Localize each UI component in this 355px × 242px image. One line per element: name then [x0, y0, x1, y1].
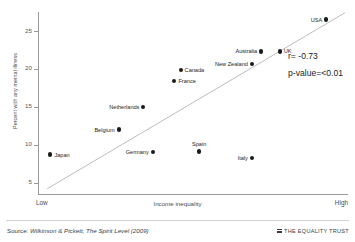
- data-point-uk[interactable]: [278, 49, 282, 53]
- brand-label: THE EQUALITY TRUST: [284, 227, 349, 235]
- point-label-new-zealand: New Zealand: [215, 61, 248, 67]
- x-axis-line: [38, 194, 348, 195]
- y-axis-title: Percent with any mental illness: [12, 31, 18, 151]
- point-label-japan: Japan: [54, 152, 69, 158]
- data-point-japan[interactable]: [48, 152, 52, 156]
- y-axis-line: [38, 12, 39, 194]
- point-label-france: France: [178, 78, 195, 84]
- data-point-france[interactable]: [172, 79, 176, 83]
- data-point-canada[interactable]: [179, 68, 183, 72]
- point-label-spain: Spain: [192, 141, 206, 147]
- cropped-title-sliver: [42, 0, 192, 7]
- hamburger-bars-icon: [277, 229, 282, 234]
- data-point-italy[interactable]: [250, 156, 254, 160]
- y-tick-label: 5: [6, 179, 32, 185]
- x-axis-title: Income inequality: [0, 200, 355, 207]
- pvalue-annotation: p-value=<0.01: [288, 68, 343, 78]
- y-tick-label: 15: [6, 103, 32, 109]
- y-tick-mark: [34, 145, 38, 146]
- data-point-belgium[interactable]: [117, 127, 121, 131]
- x-axis-low-label: Low: [36, 199, 48, 206]
- data-point-netherlands[interactable]: [141, 105, 145, 109]
- y-tick-label: 20: [6, 65, 32, 71]
- y-tick-mark: [34, 69, 38, 70]
- y-tick-mark: [34, 183, 38, 184]
- point-label-australia: Australia: [235, 48, 257, 54]
- y-tick-label: 10: [6, 141, 32, 147]
- source-prefix: Source:: [7, 227, 30, 234]
- x-axis-high-label: High: [335, 199, 348, 206]
- data-point-germany[interactable]: [151, 150, 155, 154]
- source-citation: Wilkinson & Pickett, The Spirit Level (2…: [30, 227, 149, 234]
- point-label-italy: Italy: [238, 155, 248, 161]
- source-note: Source: Wilkinson & Pickett, The Spirit …: [7, 227, 149, 235]
- point-label-canada: Canada: [185, 67, 205, 73]
- correlation-annotation: r= -0.73: [288, 51, 318, 61]
- y-tick-mark: [34, 107, 38, 108]
- data-point-usa[interactable]: [324, 17, 328, 21]
- data-point-spain[interactable]: [197, 149, 201, 153]
- point-label-usa: USA: [311, 17, 323, 23]
- point-label-germany: Germany: [126, 149, 149, 155]
- y-tick-mark: [34, 31, 38, 32]
- data-point-australia[interactable]: [259, 49, 263, 53]
- trend-line: [47, 13, 345, 189]
- point-label-belgium: Belgium: [94, 127, 114, 133]
- y-tick-label: 25: [6, 28, 32, 34]
- point-label-netherlands: Netherlands: [109, 104, 139, 110]
- data-point-new-zealand[interactable]: [250, 62, 254, 66]
- equality-trust-brand: THE EQUALITY TRUST: [277, 227, 349, 235]
- footer-divider: [6, 220, 349, 221]
- chart-screenshot: 510152025 Percent with any mental illnes…: [0, 0, 355, 242]
